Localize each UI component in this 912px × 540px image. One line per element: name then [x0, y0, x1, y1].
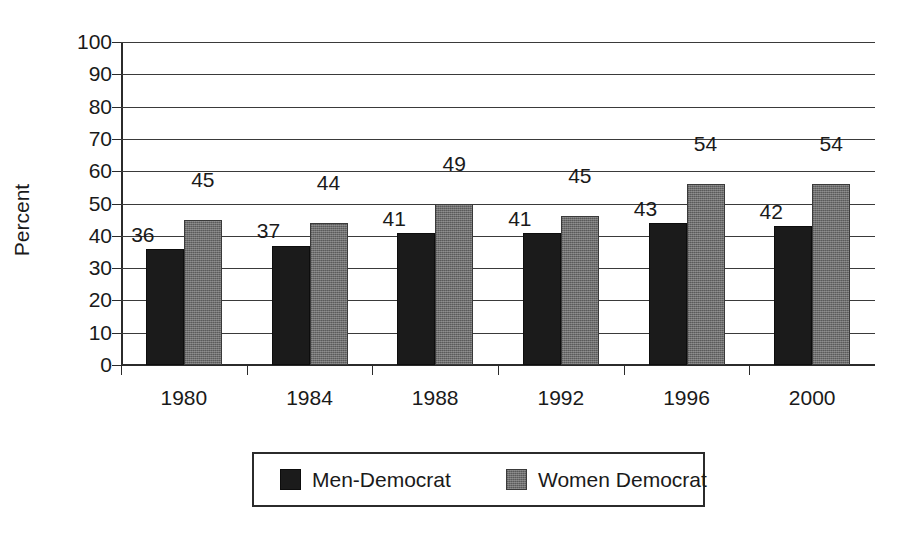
legend-label: Women Democrat: [538, 468, 707, 492]
y-axis-tick: [112, 139, 121, 140]
y-axis-tick: [112, 42, 121, 43]
y-axis-tick: [112, 204, 121, 205]
gridline: [121, 139, 875, 140]
gridline: [121, 171, 875, 172]
bar-women-1992: [561, 216, 599, 365]
y-axis-tick-label: 20: [89, 288, 112, 312]
legend-label: Men-Democrat: [312, 468, 451, 492]
y-axis-tick-label: 10: [89, 321, 112, 345]
bar-women-1988: [435, 204, 473, 366]
bar-women-2000: [812, 184, 850, 365]
bar-value-label: 42: [759, 200, 782, 224]
bar-chart: Percent 01020304050607080901003645374441…: [0, 0, 912, 540]
gridline: [121, 236, 875, 237]
y-axis-tick-label: 50: [89, 192, 112, 216]
x-axis-category-label: 1984: [286, 386, 333, 410]
x-axis-category-label: 2000: [789, 386, 836, 410]
plot-area: 0102030405060708090100364537444149414543…: [121, 42, 875, 365]
gridline: [121, 42, 875, 43]
bar-men-1988: [397, 233, 435, 365]
y-axis-tick: [112, 236, 121, 237]
bar-men-1996: [649, 223, 687, 365]
y-axis-title: Percent: [10, 184, 34, 256]
bar-value-label: 41: [382, 207, 405, 231]
x-axis-tick: [121, 364, 122, 375]
bar-women-1984: [310, 223, 348, 365]
y-axis-tick: [112, 300, 121, 301]
y-axis-tick-label: 90: [89, 62, 112, 86]
gridline: [121, 74, 875, 75]
x-axis-category-label: 1996: [663, 386, 710, 410]
bar-value-label: 37: [257, 219, 280, 243]
x-axis-tick: [624, 364, 625, 375]
y-axis-tick: [112, 107, 121, 108]
y-axis-tick: [112, 74, 121, 75]
bar-value-label: 44: [317, 171, 340, 195]
x-axis-tick: [498, 364, 499, 375]
y-axis-tick: [112, 333, 121, 334]
bar-value-label: 43: [634, 197, 657, 221]
bar-value-label: 49: [442, 152, 465, 176]
x-axis-category-label: 1992: [537, 386, 584, 410]
bar-men-2000: [774, 226, 812, 365]
bar-value-label: 54: [819, 132, 842, 156]
bar-men-1992: [523, 233, 561, 365]
legend-item-women-democrat[interactable]: Women Democrat: [506, 468, 707, 492]
x-axis-category-label: 1980: [160, 386, 207, 410]
y-axis-tick-label: 80: [89, 95, 112, 119]
x-axis-tick: [372, 364, 373, 375]
bar-women-1996: [687, 184, 725, 365]
x-axis-tick: [247, 364, 248, 375]
y-axis-tick-label: 100: [77, 30, 112, 54]
bar-value-label: 36: [131, 223, 154, 247]
bar-women-1980: [184, 220, 222, 365]
bar-men-1984: [272, 246, 310, 366]
x-axis-tick: [749, 364, 750, 375]
y-axis-tick: [112, 268, 121, 269]
legend-swatch-icon: [280, 469, 301, 490]
y-axis-tick-label: 40: [89, 224, 112, 248]
bar-value-label: 45: [568, 164, 591, 188]
legend-swatch-icon: [506, 469, 527, 490]
y-axis-tick: [112, 365, 121, 366]
gridline: [121, 333, 875, 334]
legend-item-men-democrat[interactable]: Men-Democrat: [280, 468, 451, 492]
bar-value-label: 41: [508, 207, 531, 231]
y-axis-tick-label: 70: [89, 127, 112, 151]
bar-men-1980: [146, 249, 184, 365]
y-axis-tick: [112, 171, 121, 172]
y-axis-tick-label: 60: [89, 159, 112, 183]
legend: Men-DemocratWomen Democrat: [252, 452, 705, 507]
x-axis-category-label: 1988: [412, 386, 459, 410]
gridline: [121, 268, 875, 269]
y-axis-tick-label: 0: [100, 353, 112, 377]
y-axis-tick-label: 30: [89, 256, 112, 280]
gridline: [121, 107, 875, 108]
bar-value-label: 45: [191, 168, 214, 192]
bar-value-label: 54: [694, 132, 717, 156]
gridline: [121, 300, 875, 301]
